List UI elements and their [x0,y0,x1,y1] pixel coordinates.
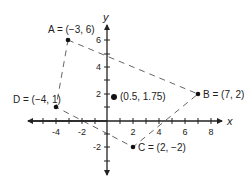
y-tick-label: -2 [93,142,101,152]
point-a-label: A = (−3, 6) [48,24,95,35]
y-tick-label: 4 [96,62,101,72]
y-tick-label: 2 [96,89,101,99]
point-b-label: B = (7, 2) [203,89,244,100]
x-tick-label: -2 [78,127,86,137]
x-tick-label: 4 [156,127,161,137]
coordinate-diagram: -4 -2 2 4 6 8 6 4 2 -2 x y A = (−3, 6) B… [0,0,252,185]
x-tick-label: -4 [52,127,60,137]
point-c [131,145,136,150]
point-d-label: D = (−4, 1) [13,94,61,105]
point-c-label: C = (2, −2) [138,142,186,153]
point-b [196,92,201,97]
point-center-label: (0.5, 1.75) [120,91,166,102]
y-tick-label: 6 [96,35,101,45]
point-a [66,38,71,43]
point-center [111,94,117,100]
point-d [54,105,59,110]
x-tick-label: 6 [182,127,187,137]
x-tick-label: 8 [208,127,213,137]
y-axis-label: y [102,11,110,23]
x-tick-label: 2 [130,127,135,137]
x-axis-label: x [226,115,233,127]
